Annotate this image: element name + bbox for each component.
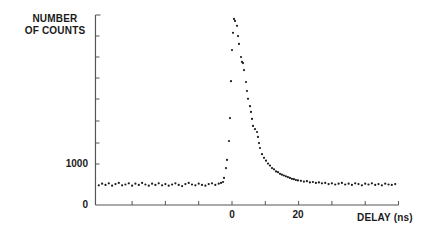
- data-point: [275, 170, 277, 172]
- data-point: [384, 183, 386, 185]
- data-point: [291, 178, 293, 180]
- data-point: [171, 183, 173, 185]
- data-point: [265, 160, 267, 162]
- data-point: [279, 173, 281, 175]
- data-point: [357, 183, 359, 185]
- data-point: [128, 182, 130, 184]
- data-point: [144, 183, 146, 185]
- data-point: [321, 182, 323, 184]
- data-point: [245, 81, 247, 83]
- data-point: [234, 20, 236, 22]
- data-point: [194, 184, 196, 186]
- data-point: [181, 185, 183, 187]
- data-point: [242, 62, 244, 64]
- data-point: [211, 182, 213, 184]
- data-point: [121, 184, 123, 186]
- y-axis-label: NUMBER OF COUNTS: [18, 13, 92, 37]
- data-point: [236, 25, 238, 27]
- data-point: [367, 183, 369, 185]
- data-point: [222, 181, 224, 183]
- data-point: [315, 182, 317, 184]
- data-point: [108, 182, 110, 184]
- data-point: [223, 177, 225, 179]
- data-points: [98, 18, 397, 187]
- data-point: [351, 184, 353, 186]
- data-point: [204, 185, 206, 187]
- data-point: [309, 181, 311, 183]
- data-point: [281, 174, 283, 176]
- data-point: [154, 184, 156, 186]
- data-point: [148, 185, 150, 187]
- data-point: [198, 183, 200, 185]
- data-point: [344, 183, 346, 185]
- data-point: [246, 90, 248, 92]
- data-point: [334, 183, 336, 185]
- y-axis-label-line1: NUMBER: [18, 13, 92, 25]
- data-point: [338, 183, 340, 185]
- data-point: [312, 181, 314, 183]
- data-point: [387, 183, 389, 185]
- data-point: [377, 183, 379, 185]
- data-point: [247, 98, 249, 100]
- data-point: [258, 142, 260, 144]
- data-point: [269, 165, 271, 167]
- y-axis-label-line2: OF COUNTS: [18, 25, 92, 37]
- data-point: [277, 171, 279, 173]
- data-point: [249, 105, 251, 107]
- data-point: [243, 69, 245, 71]
- data-point: [220, 182, 222, 184]
- data-point: [233, 18, 235, 20]
- data-point: [250, 111, 252, 113]
- data-point: [174, 182, 176, 184]
- data-point: [331, 182, 333, 184]
- data-point: [295, 179, 297, 181]
- data-point: [354, 182, 356, 184]
- data-point: [114, 183, 116, 185]
- data-point: [287, 176, 289, 178]
- data-point: [271, 167, 273, 169]
- data-point: [98, 184, 100, 186]
- data-point: [218, 183, 220, 185]
- data-point: [348, 183, 350, 185]
- data-point: [178, 184, 180, 186]
- data-point: [164, 183, 166, 185]
- data-point: [201, 184, 203, 186]
- x-tick-label-20: 20: [283, 209, 313, 220]
- data-point: [161, 184, 163, 186]
- data-point: [361, 184, 363, 186]
- data-point: [134, 183, 136, 185]
- data-point: [300, 180, 302, 182]
- data-point: [341, 182, 343, 184]
- y-tick-label-1000: 1000: [48, 158, 88, 169]
- data-point: [293, 178, 295, 180]
- data-point: [306, 180, 308, 182]
- data-point: [328, 183, 330, 185]
- data-point: [283, 174, 285, 176]
- data-point: [257, 136, 259, 138]
- data-point: [254, 128, 256, 130]
- data-point: [184, 183, 186, 185]
- data-point: [151, 183, 153, 185]
- data-point: [371, 182, 373, 184]
- data-point: [214, 184, 216, 186]
- data-point: [364, 183, 366, 185]
- data-point: [237, 35, 239, 37]
- data-point: [141, 182, 143, 184]
- data-point: [273, 168, 275, 170]
- data-point: [252, 125, 254, 127]
- data-point: [285, 175, 287, 177]
- data-point: [230, 80, 232, 82]
- y-tick-label-0: 0: [48, 199, 88, 210]
- data-point: [391, 184, 393, 186]
- data-point: [324, 182, 326, 184]
- axes: [95, 15, 398, 205]
- x-axis-label: DELAY (ns): [357, 212, 413, 223]
- data-point: [168, 185, 170, 187]
- data-point: [259, 147, 261, 149]
- data-point: [131, 185, 133, 187]
- data-point: [374, 184, 376, 186]
- data-point: [263, 157, 265, 159]
- data-point: [238, 43, 240, 45]
- data-point: [228, 140, 230, 142]
- data-point: [231, 49, 233, 51]
